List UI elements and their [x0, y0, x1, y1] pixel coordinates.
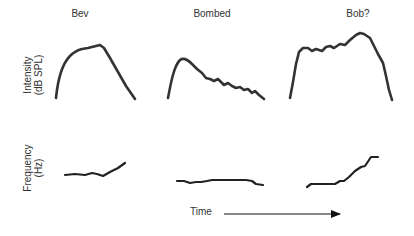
bob-frequency-curve — [307, 157, 378, 187]
bombed-frequency-curve — [177, 180, 263, 185]
bombed-intensity-curve — [168, 59, 264, 99]
time-axis-label: Time — [190, 206, 212, 217]
bob-intensity-curve — [290, 33, 392, 100]
diagram-canvas — [0, 0, 414, 236]
bev-frequency-curve — [65, 163, 125, 176]
bev-intensity-curve — [56, 45, 135, 99]
